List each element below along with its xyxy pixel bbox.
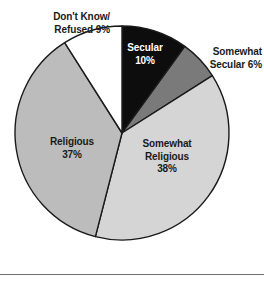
slice-label-somewhat-secular: Somewhat Secular 6% [182,46,262,71]
slice-label-secular: Secular 10% [112,42,178,67]
footer-divider [0,274,264,275]
slice-label-somewhat-religious: Somewhat Religious 38% [124,138,210,176]
slice-label-religious: Religious 37% [35,136,109,161]
slice-label-dont-know-refused: Don't Know/ Refused 9% [14,11,110,36]
pie-chart-figure: Don't Know/ Refused 9% Secular 10% Somew… [0,0,264,286]
